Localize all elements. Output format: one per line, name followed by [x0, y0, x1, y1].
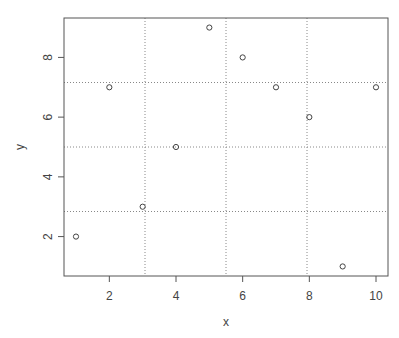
grid-lines — [64, 18, 388, 276]
data-point — [73, 234, 78, 239]
data-point — [140, 204, 145, 209]
y-axis-label: y — [13, 144, 27, 150]
scatter-plot: 246810 2468 x y — [0, 0, 399, 338]
y-tick-label: 6 — [41, 113, 55, 120]
y-axis: 2468 — [41, 54, 64, 240]
x-axis-label: x — [223, 315, 229, 329]
data-point — [240, 55, 245, 60]
data-point — [107, 85, 112, 90]
y-tick-label: 8 — [41, 54, 55, 61]
x-tick-label: 4 — [173, 289, 180, 303]
data-point — [273, 85, 278, 90]
data-point — [207, 25, 212, 30]
x-tick-label: 6 — [239, 289, 246, 303]
x-tick-label: 10 — [369, 289, 383, 303]
y-tick-label: 2 — [41, 233, 55, 240]
data-point — [307, 115, 312, 120]
x-axis: 246810 — [106, 276, 383, 303]
x-tick-label: 8 — [306, 289, 313, 303]
data-point — [340, 264, 345, 269]
x-tick-label: 2 — [106, 289, 113, 303]
data-point — [373, 85, 378, 90]
y-tick-label: 4 — [41, 173, 55, 180]
